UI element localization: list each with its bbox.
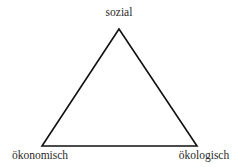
vertex-label-social: sozial <box>106 6 133 19</box>
triangle-outline <box>42 29 197 146</box>
vertex-label-ecological: ökologisch <box>179 149 229 162</box>
vertex-label-economic: ökonomisch <box>12 149 68 162</box>
sustainability-triangle-diagram: sozial ökonomisch ökologisch <box>0 0 248 167</box>
triangle-shape <box>0 0 248 167</box>
